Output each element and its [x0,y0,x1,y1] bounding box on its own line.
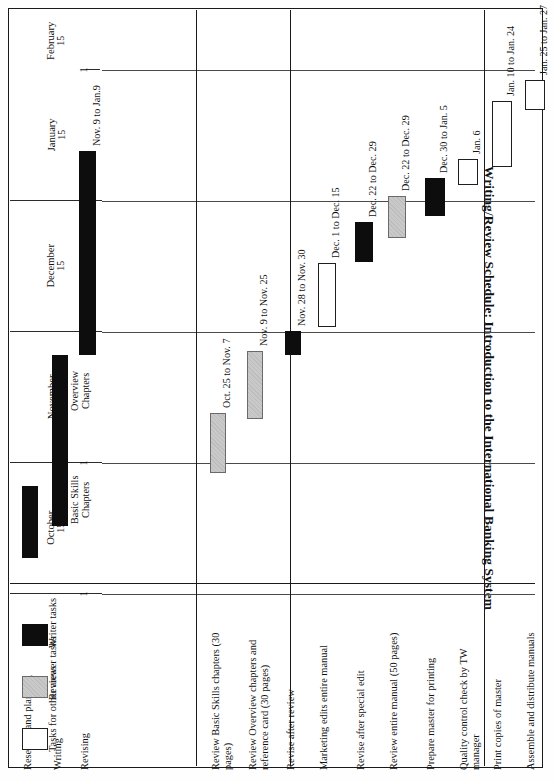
gantt-bar[interactable] [210,413,226,473]
bar-date-label: Nov. 9 to Jan.9 [92,85,102,146]
legend-label: Tasks for other areas [47,666,58,752]
task-label: Revise after review [285,689,297,770]
bar-date-label: Dec. 1 to Dec. 15 [331,187,341,258]
gantt-bar[interactable] [247,351,263,419]
gantt-chart-page: Writing/Review Schedule: Introduction to… [0,0,555,780]
legend: Writer tasksReviewer tasksTasks for othe… [14,598,98,764]
bar-date-label: Jan. 25 to Jan. 27 [539,5,549,75]
task-label: Prepare master for printing [425,658,437,770]
gantt-bar[interactable] [22,486,38,558]
task-column[interactable]: Dec. 1 to Dec. 15Marketing edits entire … [318,10,336,766]
task-column[interactable]: Dec. 30 to Jan. 5Prepare master for prin… [425,10,445,766]
task-column[interactable]: Oct. 25 to Nov. 7Review Basic Skills cha… [210,10,226,766]
task-column[interactable]: Jan. 25 to Jan. 27Assemble and distribut… [525,10,545,766]
gantt-bar[interactable] [525,80,545,110]
task-label: Marketing edits entire manual [318,645,330,770]
legend-swatch-reviewer [22,676,48,698]
gantt-bar[interactable] [355,222,373,262]
gantt-bar[interactable] [285,331,301,355]
plot-area: Research and planningBasic SkillsChapter… [102,10,535,766]
bar-date-label: Dec. 22 to Dec. 29 [368,141,378,217]
gantt-bar[interactable] [492,101,512,167]
bar-date-label: Oct. 25 to Nov. 7 [222,339,232,408]
task-label: Review Basic Skills chapters (30pages) [210,633,233,770]
task-label: Quality control check by TWmanager [458,648,481,770]
task-name-separator [10,583,535,584]
gantt-bar[interactable] [79,151,96,355]
gantt-bar[interactable] [52,410,68,526]
legend-swatch-writer [22,624,48,646]
bar-date-label: Jan. 10 to Jan. 24 [506,26,516,96]
bar-date-label: Nov. 28 to Nov. 30 [297,249,307,326]
gantt-bar[interactable] [318,263,336,327]
bar-date-label: Dec. 30 to Jan. 5 [439,105,449,173]
gantt-bar[interactable] [458,159,478,185]
gantt-bar[interactable] [52,355,68,413]
group-separator-3 [484,10,485,766]
task-label: Revise after special edit [355,670,367,770]
gantt-bar[interactable] [425,178,445,216]
group-separator-1 [196,10,197,766]
task-column[interactable]: Jan. 6Quality control check by TWmanager [458,10,478,766]
task-label: Assemble and distribute manuals [525,632,537,770]
task-column[interactable]: Jan. 10 to Jan. 24Print copies of master [492,10,512,766]
gantt-bar[interactable] [388,196,406,238]
legend-swatch-other [22,728,48,750]
bar-date-label: Jan. 6 [472,130,482,154]
task-column[interactable]: Dec. 22 to Dec. 29Revise after special e… [355,10,373,766]
task-column[interactable]: Nov. 9 to Nov. 25Review Overview chapter… [247,10,263,766]
bar-date-label: Dec. 22 to Dec. 29 [401,115,411,191]
task-label: Review entire manual (50 pages) [388,633,400,770]
bar-date-label: Nov. 9 to Nov. 25 [259,274,269,346]
task-column[interactable]: Nov. 28 to Nov. 30Revise after review [285,10,301,766]
task-label: Print copies of master [492,679,504,770]
task-column[interactable]: Dec. 22 to Dec. 29Review entire manual (… [388,10,406,766]
task-label: Review Overview chapters andreference ca… [247,640,270,770]
legend-item: Tasks for other areas [14,702,98,754]
